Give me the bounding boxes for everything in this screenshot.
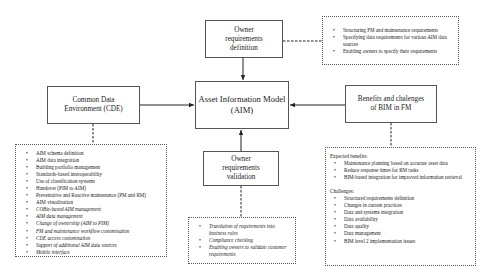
list-item: Enabling owners to specify their require…: [343, 48, 454, 55]
cde-details: AIM schema definition AIM data integrati…: [15, 144, 167, 257]
cde-box: Common Data Environment (CDE): [47, 86, 140, 124]
owner-validation-box: Owner requirements validation: [203, 151, 279, 186]
list-item: BIM-based integration for improved infor…: [344, 174, 471, 181]
list-item: Mobile interface: [36, 249, 164, 256]
list-item: AIM data management: [36, 213, 164, 220]
owner-definition-details: Structuring FM and maintenance requireme…: [322, 16, 459, 65]
owner-definition-line2: requirements: [225, 35, 263, 44]
benefits-title-line1: Benefits and chalenges: [358, 95, 424, 104]
list-item: Standards-based interoperability: [36, 171, 164, 178]
list-item: Data availability: [344, 216, 471, 223]
aim-box: Asset Information Model (AIM): [195, 81, 289, 129]
list-item: Building portfolio management: [36, 164, 164, 171]
list-item: Reduce response times for RM tasks: [344, 167, 471, 174]
benefits-header: Expected benefits:: [330, 153, 471, 160]
list-item: Data and systems integration: [344, 209, 471, 216]
owner-validation-line2: requirements: [222, 164, 260, 173]
list-item: AIM visualisation: [36, 199, 164, 206]
benefits-details: Expected benefits: Maintenance planning …: [325, 147, 476, 266]
list-item: Maintenance planning based on accurate a…: [344, 160, 471, 167]
list-item: Handover (PIM to AIM): [36, 185, 164, 192]
list-item: Preventative and Reactive maintenance (P…: [36, 192, 164, 199]
list-item: Specifying data requirements for various…: [343, 34, 454, 48]
owner-validation-line3: validation: [222, 173, 260, 182]
list-item: AIM data integration: [36, 157, 164, 164]
owner-validation-details: Translation of requirements into busines…: [188, 217, 296, 264]
list-item: Data management: [344, 230, 471, 237]
owner-definition-box: Owner requirements definition: [205, 20, 283, 58]
list-item: Use of classification systems: [36, 178, 164, 185]
list-item: CDE access customisation: [36, 235, 164, 242]
cde-title-line1: Common Data: [64, 96, 123, 105]
cde-title-line2: Environment (CDE): [64, 105, 123, 114]
list-item: BIM level 2 implementation issues: [344, 238, 471, 245]
list-item: Compliance checking: [209, 237, 291, 244]
owner-validation-line1: Owner: [222, 155, 260, 164]
challenges-header: Challenges:: [330, 188, 471, 195]
list-item: Changes in current practices: [344, 202, 471, 209]
list-item: COBie-based AIM management: [36, 206, 164, 213]
owner-definition-line1: Owner: [225, 26, 263, 35]
list-item: Data quality: [344, 223, 471, 230]
benefits-box: Benefits and chalenges of BIM in FM: [345, 85, 437, 123]
owner-definition-line3: definition: [225, 44, 263, 53]
list-item: Support of additional AIM data sources: [36, 242, 164, 249]
benefits-title-line2: of BIM in FM: [358, 104, 424, 113]
aim-title-line2: (AIM): [199, 105, 286, 116]
list-item: Structured requirements definition: [344, 195, 471, 202]
list-item: Enabling owners to validate customer req…: [209, 244, 291, 258]
list-item: AIM schema definition: [36, 150, 164, 157]
aim-title-line1: Asset Information Model: [199, 94, 286, 105]
list-item: Translation of requirements into busines…: [209, 223, 291, 237]
list-item: Structuring FM and maintenance requireme…: [343, 27, 454, 34]
list-item: FM and maintenance workflow customisatio…: [36, 228, 164, 235]
list-item: Change of ownership (AIM to PIM): [36, 220, 164, 227]
